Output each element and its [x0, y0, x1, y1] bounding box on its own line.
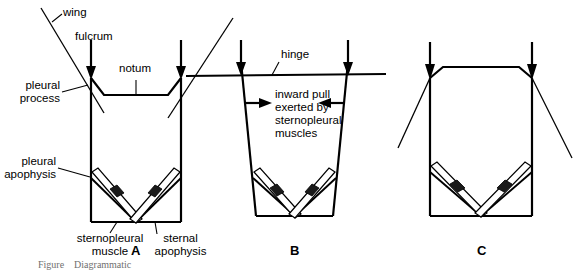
panel-b-hinge-leader [272, 62, 279, 75]
label-inward-pull-line1: inward pull [275, 88, 330, 101]
panel-c-left-wing-line [398, 78, 430, 148]
panel-a-right-sternopleural-muscle [130, 168, 180, 223]
panel-a-wing-leader [52, 14, 62, 22]
label-inward-pull-line3: sternopleural [275, 114, 341, 127]
panel-b-right-wall [333, 62, 348, 216]
panel-a-right-fulcrum-arrow [176, 40, 186, 80]
figure-caption: Figure Diagrammatic [38, 259, 131, 270]
panel-c-notum-arched [430, 67, 532, 78]
panel-b-right-sternopleural-muscle [289, 168, 335, 218]
label-pleural-process-line1: pleural [0, 79, 60, 92]
label-inward-pull-line2: exerted by [275, 101, 329, 114]
label-sternal-apophysis-line2: apophysis [128, 245, 233, 258]
panel-c-right-sternopleural-muscle [475, 162, 531, 217]
panel-c-group [398, 42, 572, 217]
panel-letter-b: B [290, 243, 299, 258]
label-pleural-apophysis-line1: pleural [0, 155, 56, 168]
panel-b-hinge-line [186, 74, 386, 76]
panel-c-right-wing-line [532, 78, 572, 158]
label-fulcrum: fulcrum [75, 30, 113, 43]
panel-letter-a: A [131, 243, 140, 258]
panel-a-left-fulcrum-arrow [86, 40, 96, 80]
panel-b-left-wall [241, 62, 256, 216]
panel-a-group [41, 8, 233, 234]
panel-b-right-fulcrum-arrow [343, 40, 353, 76]
panel-letter-c: C [477, 243, 486, 258]
label-pleural-apophysis-line2: apophysis [0, 168, 56, 181]
label-pleural-process-line2: process [0, 92, 60, 105]
label-hinge: hinge [281, 48, 309, 61]
panel-a-pleural-apophysis-leader [58, 168, 90, 177]
label-wing: wing [63, 6, 87, 19]
panel-b-left-inward-pull-arrow [245, 98, 272, 108]
panel-a-pleural-process-leader [62, 85, 88, 92]
panel-b-left-fulcrum-arrow [236, 40, 246, 76]
label-notum: notum [119, 62, 151, 75]
label-inward-pull-line4: muscles [275, 127, 317, 140]
label-sternal-apophysis-line1: sternal [128, 232, 233, 245]
